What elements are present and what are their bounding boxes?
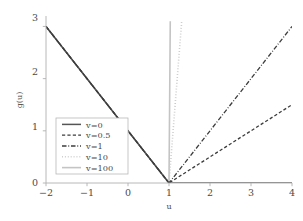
x-tick-label-1: 1 [166, 187, 172, 198]
x-tick-label-3: 3 [248, 187, 254, 198]
x-tick-label--2: −2 [39, 187, 53, 198]
plot-canvas: 3 2 1 0 −2 −1 0 1 2 3 4 u g(u) v=0 v=0.5… [0, 0, 303, 221]
legend-label-v05: v=0.5 [85, 130, 111, 140]
legend: v=0 v=0.5 v=1 v=10 v=100 [56, 118, 128, 174]
y-tick-label-1: 1 [32, 121, 38, 132]
legend-label-v0: v=0 [85, 120, 103, 130]
x-tick-label--1: −1 [80, 187, 94, 198]
y-tick-label-2: 2 [32, 66, 38, 77]
legend-label-v100: v=100 [85, 163, 113, 173]
chart-figure: 3 2 1 0 −2 −1 0 1 2 3 4 u g(u) v=0 v=0.5… [0, 0, 303, 221]
legend-label-v1: v=1 [85, 141, 103, 151]
legend-label-v10: v=10 [85, 152, 108, 162]
y-tick-label-0: 0 [32, 177, 38, 188]
y-tick-label-3: 3 [32, 12, 38, 23]
y-axis-title: g(u) [15, 92, 24, 109]
x-tick-label-4: 4 [289, 187, 295, 198]
x-tick-label-0: 0 [125, 187, 131, 198]
x-tick-label-2: 2 [207, 187, 213, 198]
x-axis-title: u [166, 202, 171, 211]
